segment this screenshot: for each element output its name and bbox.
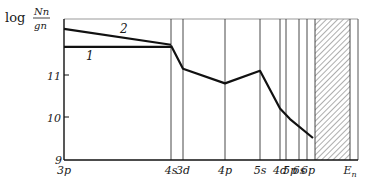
chart: 91011logNngn3p4s3d4p5s4d5p6s6pEn12	[0, 0, 376, 183]
x-tick-label: 5s	[254, 164, 267, 177]
curve-label: 1	[86, 49, 94, 63]
curve-label: 2	[119, 22, 128, 36]
plot-area: 91011logNngn3p4s3d4p5s4d5p6s6pEn12	[5, 6, 358, 179]
x-tick-label: En	[342, 164, 356, 179]
y-axis-label-log: log	[5, 10, 25, 25]
series-line-2	[64, 29, 171, 45]
hatched-continuum-region	[315, 19, 350, 160]
y-tick-label: 11	[47, 70, 61, 83]
series-line-common	[171, 46, 313, 138]
y-tick-label: 10	[47, 112, 61, 125]
x-tick-label: 3d	[176, 164, 190, 177]
x-tick-label: 4p	[217, 164, 232, 177]
y-axis-label-numerator: Nn	[33, 6, 49, 17]
x-tick-label: 6p	[301, 164, 315, 177]
x-tick-label: 3p	[57, 164, 71, 177]
y-axis-label-denominator: gn	[34, 20, 47, 31]
